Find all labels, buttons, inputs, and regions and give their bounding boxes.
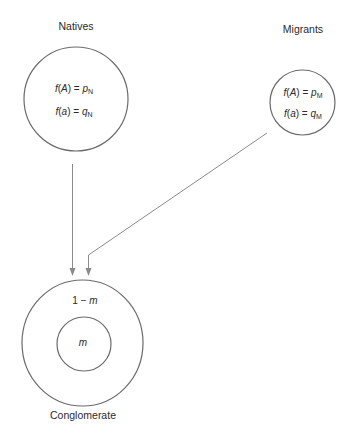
natives-to-conglomerate-arrow bbox=[70, 164, 76, 276]
conglomerate-label: Conglomerate bbox=[50, 409, 116, 421]
natives-label: Natives bbox=[58, 20, 93, 32]
arrowhead-icon bbox=[70, 268, 76, 276]
migrants-to-conglomerate-arrow bbox=[86, 133, 268, 276]
conglomerate-outer-fraction: 1 − m bbox=[72, 295, 97, 306]
arrowhead-icon bbox=[86, 268, 92, 276]
conglomerate-inner-fraction: m bbox=[79, 337, 87, 348]
migrants-freq-A: f(A) = pM bbox=[284, 87, 323, 99]
migrants-connector-line bbox=[89, 133, 268, 269]
natives-node: Natives f(A) = pN f(a) = qN bbox=[24, 20, 128, 151]
migrants-label: Migrants bbox=[283, 23, 323, 35]
natives-freq-A: f(A) = pN bbox=[55, 83, 93, 95]
natives-circle bbox=[24, 47, 128, 151]
migrants-node: Migrants f(A) = pM f(a) = qM bbox=[270, 23, 335, 135]
natives-freq-a: f(a) = qN bbox=[55, 106, 92, 118]
migrants-freq-a: f(a) = qM bbox=[284, 108, 322, 120]
conglomerate-node: 1 − m m Conglomerate bbox=[22, 280, 143, 421]
gene-flow-diagram: Natives f(A) = pN f(a) = qN Migrants f(A… bbox=[0, 0, 345, 433]
migrants-circle bbox=[270, 70, 335, 135]
